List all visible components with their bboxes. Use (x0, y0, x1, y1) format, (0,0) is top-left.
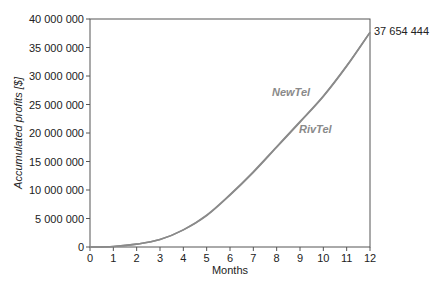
x-tick-label: 5 (204, 252, 210, 264)
series-lines (90, 32, 370, 247)
x-tick-label: 10 (317, 252, 329, 264)
series-line-rivtel (90, 32, 370, 247)
series-line-newtel (90, 32, 370, 247)
x-tick-label: 4 (180, 252, 186, 264)
x-tick-label: 11 (341, 252, 352, 264)
x-tick-label: 2 (134, 252, 140, 264)
y-axis-ticks: 05 000 00010 000 00015 000 00020 000 000… (29, 13, 90, 253)
x-tick-label: 1 (110, 252, 116, 264)
y-tick-label: 25 000 000 (29, 99, 84, 111)
series-label-newtel: NewTel (272, 86, 311, 98)
y-tick-label: 20 000 000 (29, 127, 84, 139)
x-tick-label: 3 (157, 252, 163, 264)
series-label-rivtel: RivTel (299, 123, 333, 135)
x-tick-label: 9 (297, 252, 303, 264)
y-tick-label: 0 (78, 241, 84, 253)
y-tick-label: 35 000 000 (29, 42, 84, 54)
y-tick-label: 40 000 000 (29, 13, 84, 25)
y-tick-label: 30 000 000 (29, 70, 84, 82)
y-tick-label: 5 000 000 (35, 213, 84, 225)
x-tick-label: 12 (364, 252, 376, 264)
x-tick-label: 0 (87, 252, 93, 264)
y-tick-label: 10 000 000 (29, 184, 84, 196)
x-tick-label: 8 (274, 252, 280, 264)
x-tick-label: 7 (250, 252, 256, 264)
end-value-label: 37 654 444 (374, 25, 429, 37)
x-tick-label: 6 (227, 252, 233, 264)
y-tick-label: 15 000 000 (29, 156, 84, 168)
x-axis-title: Months (212, 264, 249, 276)
profit-chart: 05 000 00010 000 00015 000 00020 000 000… (0, 0, 437, 291)
x-axis-ticks: 0123456789101112 (87, 247, 376, 264)
y-axis-title: Accumulated profits [$] (12, 76, 24, 190)
